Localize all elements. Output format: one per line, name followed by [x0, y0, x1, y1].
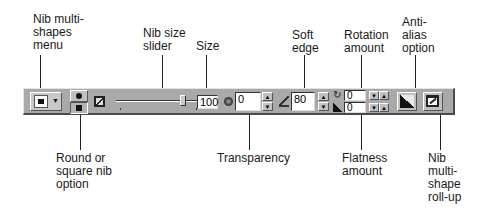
leader-soft-edge: [304, 55, 305, 90]
round-nib-button[interactable]: [70, 90, 88, 102]
anti-alias-icon: [400, 95, 414, 108]
slider-track: [116, 100, 200, 102]
nib-size-icon: [94, 96, 105, 107]
flatness-spin-down[interactable]: ▼: [369, 103, 379, 112]
slider-thumb[interactable]: [180, 95, 186, 106]
rotation-icon: ↻: [333, 90, 341, 100]
transparency-spin-down[interactable]: ▼: [262, 102, 273, 111]
label-anti-alias-option: Anti- alias option: [402, 16, 435, 55]
roll-up-icon: [426, 95, 439, 107]
transparency-spin-up[interactable]: ▲: [262, 92, 273, 101]
leader-anti-alias-option: [415, 55, 416, 90]
label-nib-multi-shape-roll-up: Nib multi- shape roll-up: [428, 152, 461, 204]
leader-flatness-amount: [361, 115, 362, 150]
flatness-spin-up[interactable]: ▲: [379, 103, 389, 112]
leader-transparency: [249, 115, 250, 150]
transparency-icon: [224, 97, 233, 106]
dropdown-arrow-icon: ▼: [52, 97, 59, 104]
flatness-input[interactable]: 0: [344, 102, 366, 113]
label-round-or-square-nib-option: Round or square nib option: [56, 152, 112, 191]
square-nib-icon: [76, 105, 82, 111]
slider-tick-min: [120, 108, 121, 110]
flatness-icon: [333, 102, 342, 112]
label-soft-edge: Soft edge: [292, 29, 319, 55]
label-flatness-amount: Flatness amount: [342, 152, 387, 178]
leader-nib-multi-shape-roll-up: [440, 115, 441, 150]
soft-edge-icon: [279, 96, 289, 107]
leader-nib-multi-shapes-menu: [40, 55, 41, 88]
label-nib-multi-shapes-menu: Nib multi- shapes menu: [33, 13, 84, 52]
nib-toolbar: ▼ 100 0 ▲ ▼ 80 ▲ ▼ ↻ 0 0 ▼ ▲ ▼ ▲: [23, 88, 455, 115]
nib-multi-shapes-menu[interactable]: ▼: [30, 92, 62, 111]
rotation-spin-down[interactable]: ▼: [369, 91, 379, 100]
soft-edge-input[interactable]: 80: [291, 92, 315, 111]
soft-edge-spin-up[interactable]: ▲: [318, 92, 329, 101]
label-size: Size: [196, 40, 219, 53]
rotation-spin-up[interactable]: ▲: [379, 91, 389, 100]
leader-rotation-amount: [361, 55, 362, 90]
label-rotation-amount: Rotation amount: [344, 29, 389, 55]
rotation-input[interactable]: 0: [344, 90, 366, 101]
leader-round-or-square-nib-option: [80, 115, 81, 150]
label-transparency: Transparency: [217, 152, 290, 165]
nib-preview-square-icon: [34, 95, 48, 108]
label-nib-size-slider: Nib size slider: [143, 27, 186, 53]
square-nib-button[interactable]: [70, 102, 88, 114]
nib-multi-shape-roll-up-button[interactable]: [423, 92, 443, 111]
soft-edge-spin-down[interactable]: ▼: [318, 102, 329, 111]
anti-alias-button[interactable]: [397, 92, 417, 111]
transparency-input[interactable]: 0: [235, 92, 261, 111]
size-input[interactable]: 100: [197, 95, 218, 109]
nib-size-slider[interactable]: [114, 94, 202, 110]
round-nib-icon: [76, 93, 82, 99]
